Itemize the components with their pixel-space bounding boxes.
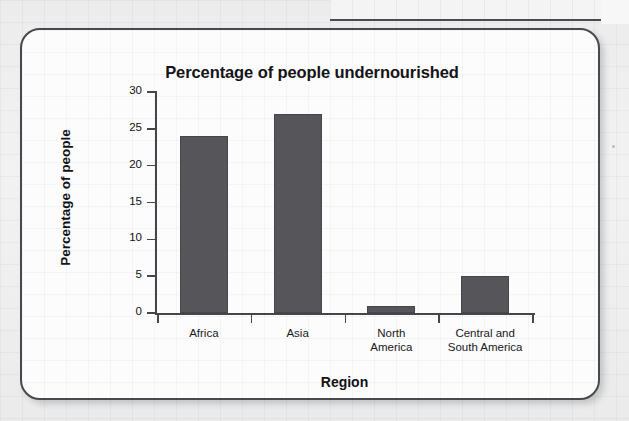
x-axis-tick [251, 315, 253, 323]
x-axis-category-label-line: South America [432, 340, 538, 354]
bar [461, 276, 509, 313]
y-axis-tick-label: 20 [102, 158, 142, 170]
y-axis-tick-label: 15 [102, 195, 142, 207]
y-axis-tick-label: 25 [102, 121, 142, 133]
bar [180, 136, 228, 313]
y-axis-tick-label: 0 [102, 305, 142, 317]
x-axis-category-label-line: Africa [151, 326, 257, 340]
x-axis-tick [157, 315, 159, 323]
x-axis-tick [532, 315, 534, 323]
x-axis-category-label-line: Central and [432, 326, 538, 340]
y-axis-tick [147, 312, 156, 314]
x-axis-category-label-line: Asia [245, 326, 351, 340]
y-axis-tick [147, 275, 156, 277]
page-backdrop: Percentage of people undernourished 0510… [0, 0, 629, 421]
x-axis-title: Region [157, 374, 532, 390]
figure-card: Percentage of people undernourished 0510… [20, 28, 600, 400]
background-paper-sheet [330, 0, 629, 21]
x-axis-category-label: Central andSouth America [432, 326, 538, 354]
x-axis-category-label: Asia [245, 326, 351, 340]
y-axis-tick [147, 165, 156, 167]
x-axis-category-label-line: North [339, 326, 445, 340]
y-axis-tick-label: 30 [102, 84, 142, 96]
y-axis-tick-label: 5 [102, 268, 142, 280]
x-axis-tick [345, 315, 347, 323]
y-axis-tick-label: 10 [102, 231, 142, 243]
paper-speck [612, 145, 615, 148]
x-axis-category-label-line: America [339, 340, 445, 354]
y-axis-tick [147, 128, 156, 130]
y-axis-tick [147, 239, 156, 241]
chart-title: Percentage of people undernourished [22, 63, 600, 82]
x-axis-tick [438, 315, 440, 323]
background-paper-edge [601, 0, 629, 24]
x-axis-category-label: NorthAmerica [339, 326, 445, 354]
bar [367, 306, 415, 313]
bar [274, 114, 322, 313]
y-axis-title: Percentage of people [58, 118, 73, 278]
y-axis-tick [147, 202, 156, 204]
x-axis-category-label: Africa [151, 326, 257, 340]
y-axis-tick [147, 91, 156, 93]
